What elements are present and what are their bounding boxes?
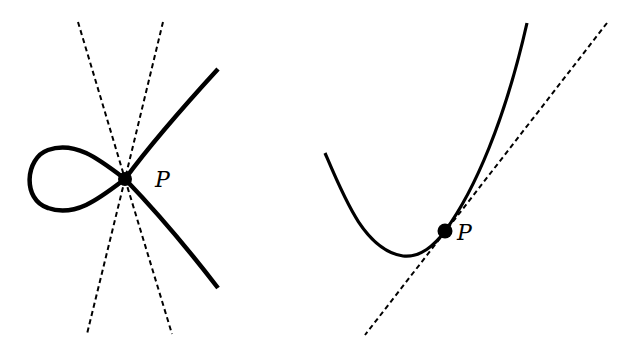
smooth-curve — [325, 23, 527, 256]
point-p-smooth — [438, 224, 453, 239]
point-label-smooth: P — [456, 220, 473, 245]
figure-canvas: P P — [0, 0, 629, 350]
tangent-line-1 — [78, 22, 125, 179]
point-p-node — [118, 172, 132, 186]
panel-smooth: P — [325, 23, 607, 335]
tangent-line — [365, 23, 607, 335]
point-label-node: P — [154, 167, 171, 192]
panel-node: P — [30, 22, 218, 334]
